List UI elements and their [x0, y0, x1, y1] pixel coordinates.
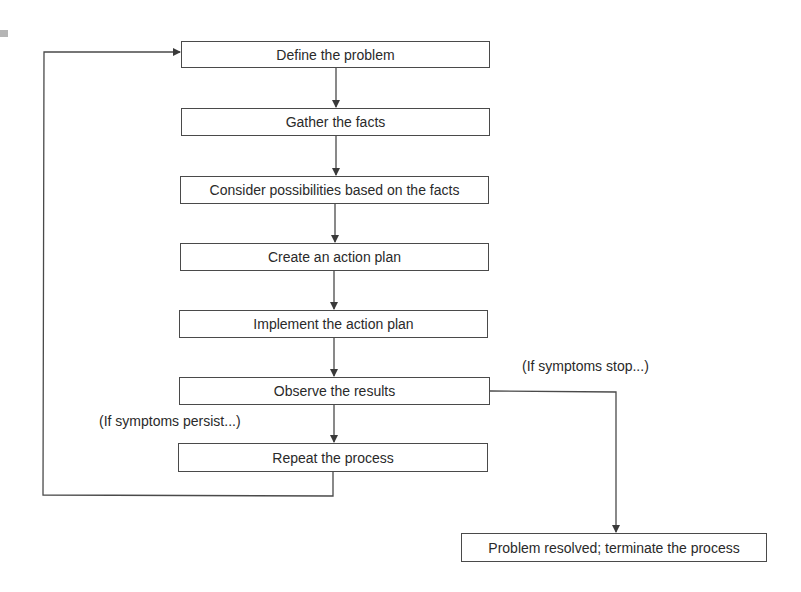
arrow-observe-to-resolved [490, 391, 616, 532]
step-label: Observe the results [274, 383, 395, 399]
step-implement-action-plan: Implement the action plan [179, 310, 488, 338]
step-label: Define the problem [276, 47, 394, 63]
step-consider-possibilities: Consider possibilities based on the fact… [180, 176, 489, 204]
step-create-action-plan: Create an action plan [180, 243, 489, 271]
terminal-label: Problem resolved; terminate the process [488, 540, 739, 556]
connector-lines [0, 0, 801, 592]
step-gather-facts: Gather the facts [181, 108, 490, 136]
step-label: Consider possibilities based on the fact… [210, 182, 460, 198]
step-observe-results: Observe the results [179, 377, 490, 405]
step-define-problem: Define the problem [181, 41, 490, 68]
branch-label-stop: (If symptoms stop...) [522, 358, 649, 374]
branch-label-persist: (If symptoms persist...) [99, 413, 241, 429]
step-label: Implement the action plan [253, 316, 413, 332]
step-label: Create an action plan [268, 249, 401, 265]
step-label: Gather the facts [286, 114, 386, 130]
terminal-problem-resolved: Problem resolved; terminate the process [461, 533, 767, 562]
step-repeat-process: Repeat the process [178, 443, 488, 472]
step-label: Repeat the process [272, 450, 393, 466]
